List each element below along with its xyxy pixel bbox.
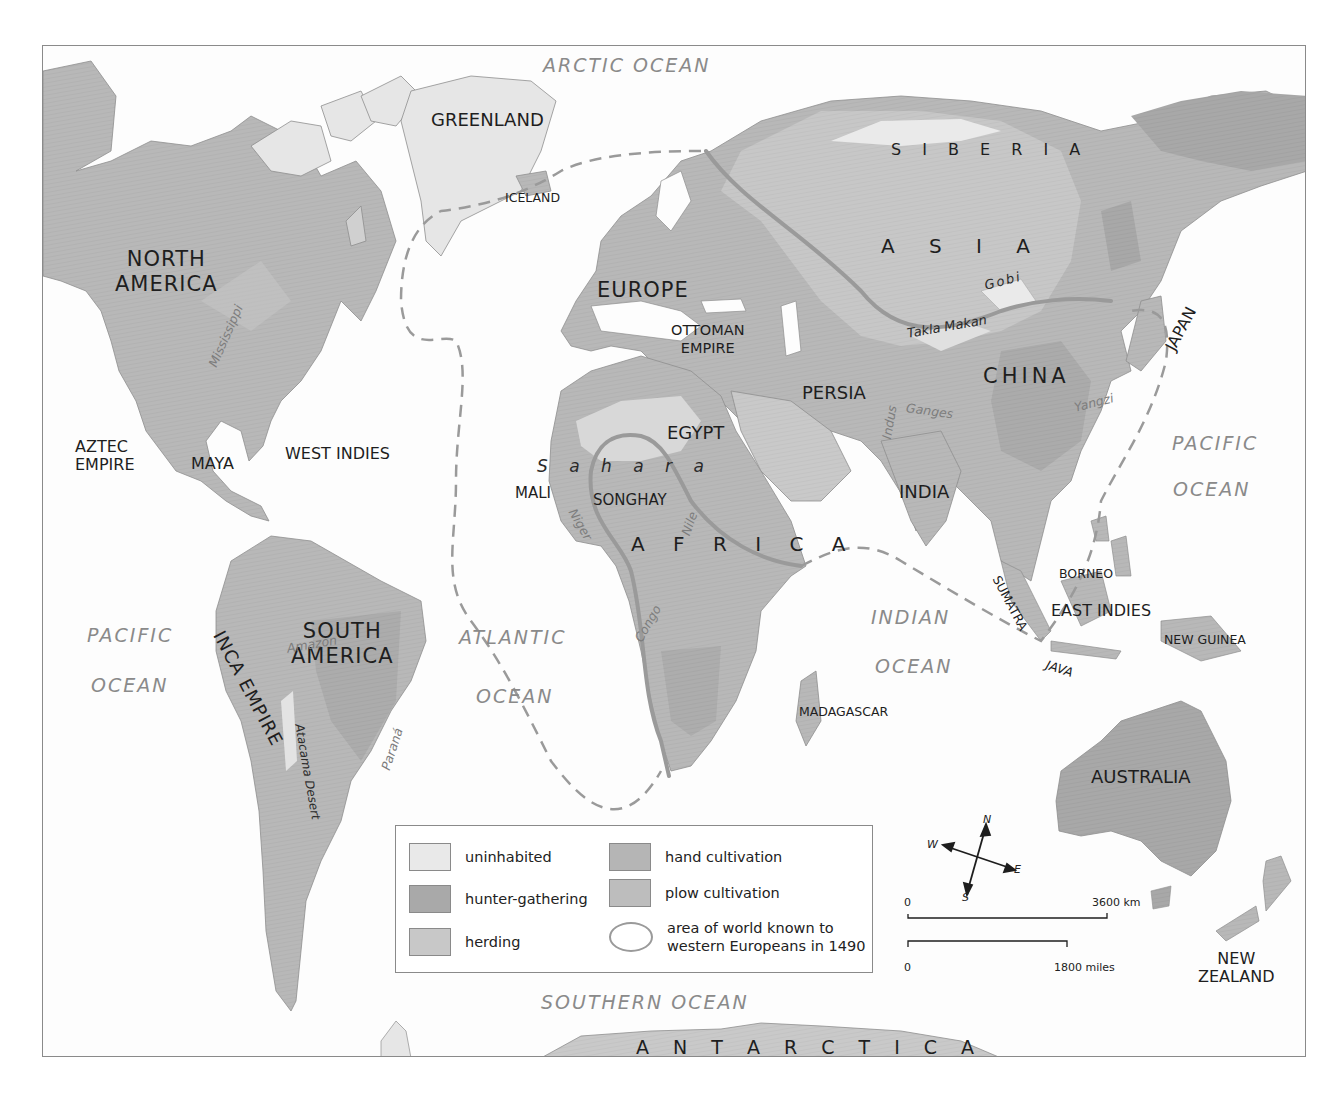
label-asia: A S I A [881,236,1044,256]
legend-label: uninhabited [465,848,552,866]
ocean-label-pacific-west: PACIFIC [87,626,173,645]
label-new-guinea: NEW GUINEA [1164,634,1246,647]
compass-south: S [962,891,969,904]
scale-bars [908,913,1107,947]
label-india: INDIA [899,483,949,501]
label-greenland: GREENLAND [431,111,544,129]
label-west-indies: WEST INDIES [285,446,390,462]
label-siberia: S I B E R I A [891,142,1088,158]
label-australia: AUSTRALIA [1091,768,1191,786]
legend-swatch-herding [409,928,451,956]
label-maya: MAYA [191,456,234,472]
label-madagascar: MADAGASCAR [799,706,888,719]
label-sahara: S a h a r a [537,458,712,475]
legend-label: hunter-gathering [465,890,588,908]
legend-swatch-hunter-gathering [409,885,451,913]
compass-west: W [927,838,938,851]
legend-swatch-plow-cultivation [609,879,651,907]
label-mali: MALI [515,486,551,501]
label-europe: EUROPE [597,280,689,301]
ocean-label-atlantic: ATLANTIC [459,628,567,647]
label-songhay: SONGHAY [593,493,667,508]
ocean-label-atlantic-2: OCEAN [476,687,553,706]
tasmania-landmass [1151,886,1171,909]
label-egypt: EGYPT [667,424,724,442]
legend-label: plow cultivation [665,884,780,902]
legend-swatch-uninhabited [409,843,451,871]
australia-landmass [1056,701,1231,876]
ocean-label-pacific-east: PACIFIC [1172,434,1258,453]
label-east-indies: EAST INDIES [1051,603,1151,619]
legend-label: area of world known towestern Europeans … [667,919,865,955]
ocean-label-arctic: ARCTIC OCEAN [543,56,710,75]
legend-item-herding: herding [409,928,520,956]
legend-label: hand cultivation [665,848,782,866]
compass-east: E [1014,863,1021,876]
ocean-label-southern: SOUTHERN OCEAN [541,993,749,1012]
label-africa: A F R I C A [631,534,856,554]
label-china: CHINA [983,366,1070,387]
scale-mi-max: 1800 miles [1054,961,1115,974]
map-legend: uninhabited hunter-gathering herding han… [395,825,873,973]
legend-swatch-hand-cultivation [609,843,651,871]
legend-item-uninhabited: uninhabited [409,843,552,871]
new-zealand-landmass [1216,856,1291,941]
label-borneo: BORNEO [1059,568,1113,581]
legend-label: herding [465,933,520,951]
legend-oval-icon [609,922,653,952]
legend-item-known-world: area of world known towestern Europeans … [609,919,865,955]
ocean-label-pacific-east-2: OCEAN [1173,480,1250,499]
ocean-label-indian-2: OCEAN [875,657,952,676]
ocean-label-indian: INDIAN [871,608,950,627]
scale-km-zero: 0 [904,896,911,909]
scale-km-max: 3600 km [1092,896,1141,909]
ocean-label-pacific-west-2: OCEAN [91,676,168,695]
label-aztec-empire: AZTECEMPIRE [75,438,135,475]
greenland-landmass [401,76,556,256]
compass-rose [943,824,1015,895]
label-new-zealand: NEWZEALAND [1198,950,1275,987]
legend-item-hunter-gathering: hunter-gathering [409,885,588,913]
antarctic-peninsula [381,1021,411,1057]
label-north-america: NORTHAMERICA [115,249,218,295]
label-persia: PERSIA [802,384,866,402]
label-antarctica: A N T A R C T I C A [636,1038,983,1057]
label-iceland: ICELAND [505,192,560,205]
legend-item-plow-cultivation: plow cultivation [609,879,780,907]
legend-item-hand-cultivation: hand cultivation [609,843,782,871]
compass-north: N [983,813,991,826]
label-ottoman-empire: OTTOMANEMPIRE [671,323,745,355]
scale-mi-zero: 0 [904,961,911,974]
